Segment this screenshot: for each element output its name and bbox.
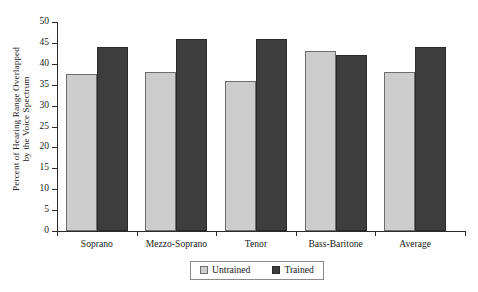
legend-item-trained[interactable]: Trained [272, 264, 314, 276]
bar-trained [336, 55, 367, 231]
bar-group [145, 22, 207, 231]
plot-area: 05101520253035404550 SopranoMezzo-Sopran… [57, 22, 455, 231]
y-axis-title-line-2: by the Voice Spectrum [21, 76, 32, 161]
category-label: Average [375, 237, 455, 250]
bar-trained [97, 47, 128, 231]
category-label: Soprano [57, 237, 137, 250]
y-axis-tick-label: 5 [44, 203, 49, 216]
y-axis-tick: 35 [52, 85, 57, 86]
y-axis-tick-label: 35 [40, 78, 50, 91]
bar-untrained [145, 72, 176, 231]
bar-untrained [384, 72, 415, 231]
y-axis-tick: 5 [52, 210, 57, 211]
y-axis-tick-label: 20 [40, 140, 50, 153]
y-axis-title-line-1: Percent of Hearing Range Overlapped [11, 47, 22, 191]
y-axis-tick-label: 25 [40, 120, 50, 133]
x-axis-tick [216, 231, 217, 236]
bar-untrained [66, 74, 97, 231]
y-axis-tick-label: 15 [40, 161, 50, 174]
x-axis-tick [57, 231, 58, 236]
chart-legend: UntrainedTrained [190, 261, 324, 280]
x-axis-tick [137, 231, 138, 236]
bar-group [225, 22, 287, 231]
bar-chart: Percent of Hearing Range Overlapped by t… [0, 0, 478, 292]
category-label: Mezzo-Soprano [137, 237, 217, 250]
bar-trained [256, 39, 287, 231]
y-axis-tick-label: 0 [44, 224, 49, 237]
x-axis-tick [375, 231, 376, 236]
bar-group [305, 22, 367, 231]
y-axis-tick-label: 45 [40, 36, 50, 49]
y-axis-tick: 30 [52, 106, 57, 107]
category-label: Tenor [216, 237, 296, 250]
bar-untrained [225, 81, 256, 231]
bar-trained [176, 39, 207, 231]
y-axis-tick: 50 [52, 22, 57, 23]
y-axis-tick-label: 30 [40, 99, 50, 112]
bar-untrained [305, 51, 336, 231]
category-label: Bass-Baritone [296, 237, 376, 250]
legend-swatch-icon [272, 266, 280, 274]
bar-group [66, 22, 128, 231]
x-axis-line [57, 231, 466, 232]
legend-swatch-icon [200, 266, 208, 274]
legend-item-untrained[interactable]: Untrained [200, 264, 250, 276]
y-axis-title: Percent of Hearing Range Overlapped by t… [6, 0, 36, 238]
y-axis-tick: 10 [52, 189, 57, 190]
y-axis-tick: 15 [52, 168, 57, 169]
x-axis-end-tick [465, 231, 466, 236]
y-axis-tick-label: 40 [40, 57, 50, 70]
legend-label: Trained [284, 264, 314, 276]
y-axis-tick-label: 10 [40, 182, 50, 195]
y-axis-tick: 20 [52, 147, 57, 148]
y-axis-tick-label: 50 [40, 15, 50, 28]
y-axis-tick: 45 [52, 43, 57, 44]
legend-label: Untrained [212, 264, 250, 276]
y-axis-tick: 40 [52, 64, 57, 65]
y-axis-tick: 25 [52, 127, 57, 128]
bar-group [384, 22, 446, 231]
bar-trained [415, 47, 446, 231]
y-axis-line [57, 22, 58, 231]
x-axis-tick [296, 231, 297, 236]
